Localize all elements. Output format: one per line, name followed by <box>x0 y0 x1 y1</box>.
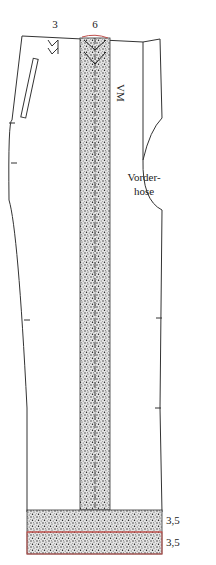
piece-label-line1: Vorder- <box>120 172 168 183</box>
hem-measure-2: 3,5 <box>166 537 180 548</box>
strip-width-label: 6 <box>87 19 103 30</box>
hem-measure-1: 3,5 <box>166 515 180 526</box>
dart-mark <box>48 40 58 54</box>
pocket-opening <box>21 58 38 118</box>
pattern-drawing <box>0 0 216 565</box>
piece-label-line2: hose <box>120 186 168 197</box>
fly-mark-label: VM <box>115 84 126 102</box>
dart-width-label: 3 <box>48 19 62 30</box>
